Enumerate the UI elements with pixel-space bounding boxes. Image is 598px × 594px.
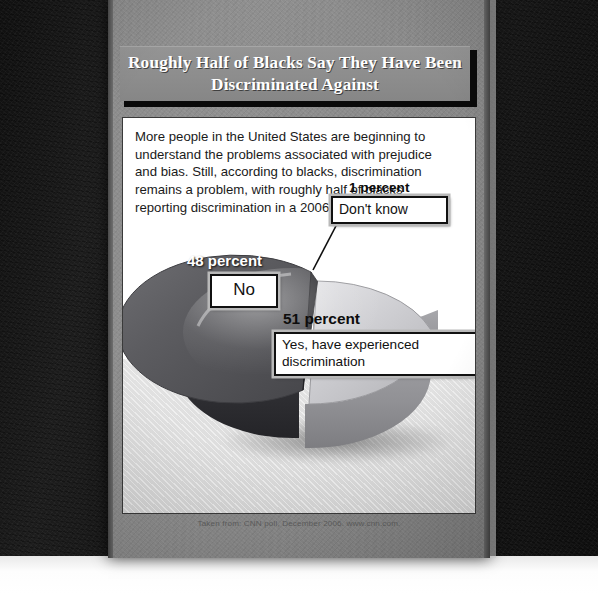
content-panel: More people in the United States are beg… [122,117,476,514]
leader-line-dont-know [313,224,337,270]
title-plaque: Roughly Half of Blacks Say They Have Bee… [120,46,470,101]
poster-page: Roughly Half of Blacks Say They Have Bee… [108,0,490,558]
page-right-edge-highlight [490,0,496,558]
percent-label-no: 48 percent [187,252,262,269]
title-plaque-drop-shadow [124,100,476,107]
callout-yes[interactable]: Yes, have experienced discrimination [274,332,476,376]
surface-highlight-strip [0,556,598,594]
title-plaque-side-shadow [470,50,477,107]
page-left-edge [108,0,113,558]
callout-dont-know[interactable]: Don't know [331,196,448,224]
page-title: Roughly Half of Blacks Say They Have Bee… [120,47,470,101]
callout-no[interactable]: No [210,274,278,308]
percent-label-dont-know: 1 percent [349,180,409,195]
percent-label-yes: 51 percent [283,310,360,328]
source-attribution: Taken from: CNN poll, December 2006. www… [108,519,490,528]
